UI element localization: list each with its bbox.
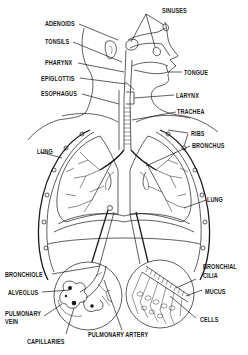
anatomy-illustration: [0, 0, 248, 355]
inset-pointer-lines: [92, 210, 148, 264]
label-pulmonary-artery: PULMONARY ARTERY: [88, 331, 148, 338]
label-capillaries: CAPILLARIES: [27, 338, 65, 345]
airway: [119, 50, 134, 150]
torso-outline: [28, 114, 218, 140]
label-lung-right: LUNG: [207, 196, 223, 203]
label-alveolus: ALVEOLUS: [8, 289, 38, 296]
label-adenoids: ADENOIDS: [45, 20, 75, 27]
label-trachea: TRACHEA: [177, 108, 204, 115]
label-mucus: MUCUS: [205, 288, 226, 295]
respiratory-diagram: SINUSES ADENOIDS TONSILS PHARYNX EPIGLOT…: [0, 0, 248, 355]
label-ribs: RIBS: [191, 130, 204, 137]
label-tongue: TONGUE: [184, 69, 208, 76]
label-pulmonary-vein-1: PULMONARY: [5, 310, 41, 317]
label-pulmonary-vein-2: VEIN: [5, 318, 18, 325]
label-lung-left: LUNG: [37, 148, 53, 155]
label-bronchial-cilia-2: CILIA: [203, 272, 218, 279]
label-bronchial-cilia-1: BRONCHIAL: [203, 263, 237, 270]
label-epiglottis: EPIGLOTTIS: [41, 75, 75, 82]
label-bronchiole: BRONCHIOLE: [5, 271, 43, 278]
label-sinuses: SINUSES: [162, 7, 187, 14]
head-profile: [58, 22, 184, 120]
label-cells: CELLS: [200, 316, 218, 323]
rib-cage: [38, 130, 209, 280]
label-larynx: LARYNX: [176, 92, 199, 99]
label-bronchus: BRONCHUS: [192, 142, 224, 149]
label-esophagus: ESOPHAGUS: [41, 90, 77, 97]
bronchial-lining-inset: [126, 260, 194, 328]
label-tonsils: TONSILS: [45, 38, 69, 45]
label-pharynx: PHARYNX: [45, 59, 72, 66]
